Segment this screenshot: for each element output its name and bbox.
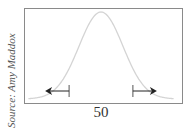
- source-credit: Source: Amy Maddox: [5, 33, 17, 128]
- bell-curve-line: [28, 12, 173, 99]
- mean-tick-label: 50: [88, 104, 114, 121]
